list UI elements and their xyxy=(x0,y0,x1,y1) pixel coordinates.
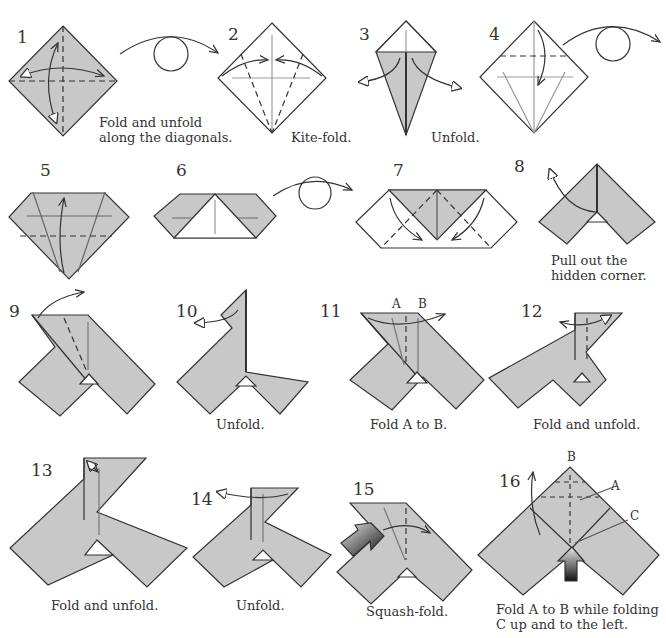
step-number-10: 10 xyxy=(176,301,198,321)
caption-step-16: Fold A to B while folding C up and to th… xyxy=(496,602,659,632)
step-number-6: 6 xyxy=(176,160,187,180)
step-number-16: 16 xyxy=(499,471,521,491)
caption-step-8: Pull out the hidden corner. xyxy=(551,253,647,283)
step-number-12: 12 xyxy=(521,301,543,321)
step-number-14: 14 xyxy=(191,489,213,509)
label-c-step-16: C xyxy=(630,509,639,523)
step-number-2: 2 xyxy=(228,24,239,44)
step-number-1: 1 xyxy=(17,27,28,47)
step-11-figure xyxy=(350,313,484,410)
caption-step-12: Fold and unfold. xyxy=(533,417,640,432)
caption-line: along the diagonals. xyxy=(99,130,232,145)
step-9-figure xyxy=(19,292,155,416)
step-12-figure xyxy=(489,313,622,408)
step-number-15: 15 xyxy=(353,479,375,499)
caption-step-13: Fold and unfold. xyxy=(51,598,158,613)
caption-step-1: Fold and unfold along the diagonals. xyxy=(99,115,232,145)
step-8-figure xyxy=(539,164,655,244)
step-number-4: 4 xyxy=(489,24,500,44)
label-b-step-11: B xyxy=(418,297,427,311)
label-a-step-11: A xyxy=(392,297,401,311)
caption-step-3: Unfold. xyxy=(431,130,480,145)
step-number-11: 11 xyxy=(320,301,342,321)
step-7-figure xyxy=(356,190,517,248)
step-4-figure xyxy=(480,21,660,133)
step-number-9: 9 xyxy=(9,301,20,321)
label-a-step-16: A xyxy=(611,479,620,493)
step-number-5: 5 xyxy=(40,160,51,180)
caption-line: C up and to the left. xyxy=(496,617,659,632)
caption-line: Fold A to B while folding xyxy=(496,602,659,617)
caption-step-15: Squash-fold. xyxy=(366,604,448,619)
step-3-figure xyxy=(360,21,460,135)
caption-step-2: Kite-fold. xyxy=(291,130,351,145)
caption-line: Pull out the xyxy=(551,253,647,268)
step-6-figure xyxy=(154,177,352,238)
caption-step-11: Fold A to B. xyxy=(370,417,447,432)
caption-line: hidden corner. xyxy=(551,268,647,283)
step-number-8: 8 xyxy=(514,156,525,176)
step-15-figure xyxy=(337,503,472,604)
caption-step-14: Unfold. xyxy=(236,598,285,613)
step-number-7: 7 xyxy=(393,160,404,180)
label-b-step-16: B xyxy=(567,450,576,464)
step-14-figure xyxy=(193,488,331,587)
step-5-figure xyxy=(9,192,129,279)
step-number-13: 13 xyxy=(31,460,53,480)
caption-step-10: Unfold. xyxy=(216,417,265,432)
step-number-3: 3 xyxy=(359,24,370,44)
caption-line: Fold and unfold xyxy=(99,115,232,130)
